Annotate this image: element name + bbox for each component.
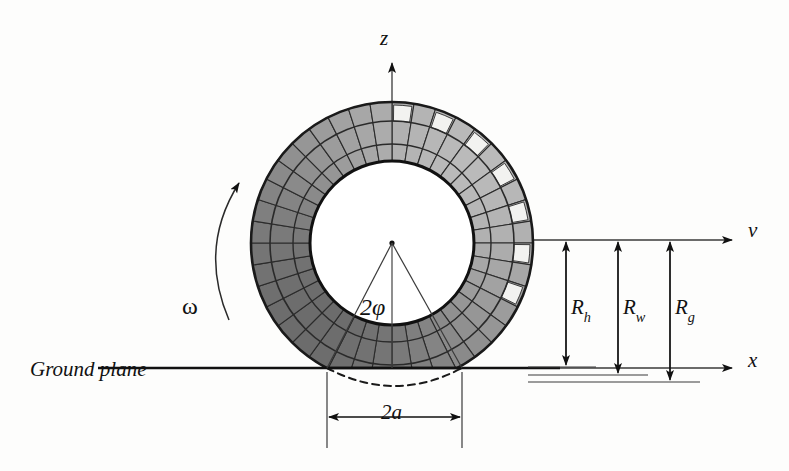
radius-label-g: Rg [675,295,695,323]
figure-canvas: z v x ω 2φ Ground plane 2a RhRwRg [0,0,789,471]
radius-symbol: R [571,295,584,319]
angle-label: 2φ [360,294,385,321]
x-axis-label: x [748,348,757,373]
omega-label: ω [182,293,198,320]
radius-symbol: R [623,295,636,319]
rotation-arrow-group [216,183,239,320]
contact-patch-label: 2a [381,400,402,425]
undeformed-profile-dashed [327,368,462,386]
omega-arc-arrow [216,183,239,320]
radius-symbol: R [675,295,688,319]
tread-highlight-block [513,244,530,262]
radius-subscript: w [636,309,646,325]
radius-subscript: g [688,309,695,325]
ground-plane-label: Ground plane [30,357,146,382]
radius-subscript: h [584,309,591,325]
tread-highlight-block [393,105,411,122]
z-axis-label: z [380,26,388,51]
radius-label-w: Rw [623,295,645,323]
radius-reference-ledges [528,367,700,382]
contact-patch [327,368,462,386]
radius-label-h: Rh [571,295,591,323]
v-axis-label: v [748,218,757,243]
